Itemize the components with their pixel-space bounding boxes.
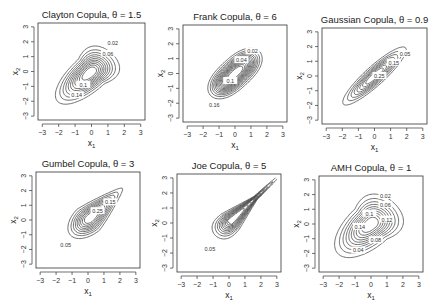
contour-label: 0.05 [60, 242, 71, 248]
y-tick-label: 3 [303, 178, 310, 182]
x-tick-label: 2 [259, 281, 263, 288]
y-tick-label: 1 [167, 57, 174, 61]
contour-label: 0.05 [400, 51, 411, 57]
x-tick-label: 1 [243, 281, 247, 288]
panel-title: Gaussian Copula, θ = 0.9 [321, 14, 428, 25]
contour-label: 0.14 [354, 224, 365, 230]
contour-label: 0.12 [382, 217, 393, 223]
y-axis: −3−2−10123x2 [149, 176, 173, 272]
y-tick-label: 3 [22, 25, 29, 29]
x-axis-label: x1 [371, 142, 379, 153]
y-tick-label: 2 [306, 45, 313, 49]
x-axis-label: x1 [225, 290, 233, 301]
y-tick-label: 0 [20, 218, 27, 222]
y-tick-label: −1 [167, 84, 174, 92]
y-axis: −3−2−10123x2 [291, 178, 315, 272]
y-tick-label: −2 [306, 101, 313, 109]
y-tick-label: 2 [20, 189, 27, 193]
panel-frank: Frank Copula, θ = 6−3−2−10123x1−3−2−1012… [155, 11, 287, 151]
y-tick-label: −3 [306, 116, 313, 124]
y-tick-label: −1 [306, 87, 313, 95]
panel-gumbel: Gumbel Copula, θ = 3−3−2−10123x1−3−2−101… [8, 158, 140, 297]
y-tick-label: 3 [306, 30, 313, 34]
panel-gaussian: Gaussian Copula, θ = 0.9−3−2−10123x1−3−2… [294, 14, 428, 153]
contour-label: 0.06 [103, 51, 114, 57]
panel-title: Clayton Copula, θ = 1.5 [42, 9, 142, 20]
plot-frame [319, 176, 423, 272]
y-tick-label: 1 [306, 59, 313, 63]
contour-label: 0.02 [247, 48, 258, 54]
x-tick-label: −2 [52, 277, 60, 284]
y-tick-label: 0 [161, 221, 168, 225]
contour-label: 0.1 [366, 211, 374, 217]
x-tick-label: 2 [122, 129, 126, 136]
contour-label: 0.05 [205, 246, 216, 252]
panel-title: Joe Copula, θ = 5 [192, 160, 267, 171]
copula-contour-figure: Clayton Copula, θ = 1.5−3−2−10123x1−3−2−… [0, 0, 434, 307]
x-tick-label: 0 [233, 131, 237, 138]
y-tick-label: −3 [303, 264, 310, 272]
panel-amh: AMH Copula, θ = 1−3−2−10123x1−3−2−10123x… [291, 162, 423, 301]
y-tick-label: −3 [22, 112, 29, 120]
x-tick-label: 1 [389, 133, 393, 140]
x-tick-label: −3 [177, 281, 185, 288]
y-tick-label: −3 [161, 264, 168, 272]
contour-label: 0.1 [79, 82, 87, 88]
x-tick-label: 3 [134, 277, 138, 284]
panel-clayton: Clayton Copula, θ = 1.5−3−2−10123x1−3−2−… [10, 9, 145, 149]
contour-label: 0.14 [71, 92, 82, 98]
y-tick-label: −2 [20, 245, 27, 253]
y-tick-label: 0 [167, 71, 174, 75]
plot-frame [36, 172, 140, 268]
contour-labels: 0.05 [203, 245, 217, 252]
y-tick-label: −2 [167, 99, 174, 107]
x-axis-label: x1 [84, 286, 92, 297]
x-tick-label: 3 [421, 133, 425, 140]
x-tick-label: 3 [417, 281, 421, 288]
x-tick-label: −1 [209, 281, 217, 288]
x-tick-label: 1 [102, 277, 106, 284]
panel-title: Frank Copula, θ = 6 [193, 11, 277, 22]
y-tick-label: −1 [20, 231, 27, 239]
x-tick-label: 3 [139, 129, 143, 136]
y-tick-label: 1 [161, 206, 168, 210]
x-axis: −3−2−10123x1 [177, 276, 279, 301]
y-axis: −3−2−10123x2 [155, 27, 179, 122]
x-tick-label: 2 [265, 131, 269, 138]
x-tick-label: −3 [322, 133, 330, 140]
x-tick-label: 2 [401, 281, 405, 288]
x-tick-label: 2 [118, 277, 122, 284]
y-axis-label: x2 [294, 72, 305, 80]
x-tick-label: 3 [275, 281, 279, 288]
y-tick-label: 3 [161, 176, 168, 180]
contour-label: 0.04 [353, 247, 364, 253]
y-tick-label: −1 [303, 235, 310, 243]
x-axis: −3−2−10123x1 [36, 272, 138, 297]
contour-lines [212, 178, 277, 239]
x-axis: −3−2−10123x1 [183, 126, 285, 151]
x-tick-label: −2 [338, 133, 346, 140]
y-tick-label: 0 [306, 74, 313, 78]
plot-frame [183, 25, 287, 122]
x-tick-label: −1 [215, 131, 223, 138]
x-axis-label: x1 [88, 138, 96, 149]
contour-label: 0.25 [92, 208, 103, 214]
x-tick-label: −2 [335, 281, 343, 288]
y-tick-label: −3 [20, 260, 27, 268]
y-tick-label: 0 [22, 69, 29, 73]
y-axis-label: x2 [8, 216, 19, 224]
x-tick-label: −3 [38, 129, 46, 136]
y-tick-label: −1 [161, 234, 168, 242]
contour-label: 0.1 [226, 78, 234, 84]
x-axis: −3−2−10123x1 [319, 276, 421, 301]
x-tick-label: −3 [183, 131, 191, 138]
x-axis: −3−2−10123x1 [322, 128, 425, 153]
x-tick-label: −1 [354, 133, 362, 140]
x-tick-label: 1 [106, 129, 110, 136]
y-tick-label: 1 [20, 203, 27, 207]
panel-title: Gumbel Copula, θ = 3 [42, 158, 135, 169]
y-axis: −3−2−10123x2 [8, 174, 32, 268]
x-tick-label: −1 [68, 277, 76, 284]
x-tick-label: −3 [36, 277, 44, 284]
x-tick-label: −2 [55, 129, 63, 136]
